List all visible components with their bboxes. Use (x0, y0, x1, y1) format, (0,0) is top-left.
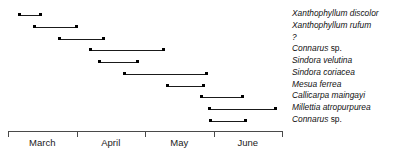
bar-line (33, 27, 78, 28)
bar-line (200, 97, 244, 98)
species-binomial: Connarus (292, 114, 328, 124)
bar-row (89, 46, 165, 55)
species-binomial: Xanthophyllum discolor (292, 8, 379, 18)
species-binomial: Sindora velutina (292, 55, 352, 65)
species-label: Callicarpa maingayi (292, 90, 365, 100)
axis-label-may: May (145, 137, 214, 149)
axis-label-june: June (214, 137, 283, 149)
bar-start-marker (33, 25, 36, 28)
bar-end-marker (39, 13, 42, 16)
axis-label-april: April (77, 137, 146, 149)
bar-start-marker (166, 84, 169, 87)
time-axis: MarchAprilMayJune (0, 131, 290, 153)
bar-end-marker (136, 60, 139, 63)
species-binomial: Sindora coriacea (292, 67, 355, 77)
bar-line (208, 109, 277, 110)
bar-row (200, 93, 244, 102)
bar-line (89, 50, 165, 51)
species-qualifier: sp. (328, 43, 342, 53)
species-label: Millettia atropurpurea (292, 102, 371, 112)
bar-row (98, 58, 139, 67)
species-binomial: Millettia atropurpurea (292, 102, 371, 112)
species-label: Mesua ferrea (292, 79, 341, 89)
bar-row (208, 105, 277, 114)
bar-start-marker (18, 13, 21, 16)
bar-line (166, 86, 205, 87)
bar-row (58, 35, 105, 44)
species-qualifier: sp. (328, 114, 342, 124)
bar-end-marker (202, 84, 205, 87)
species-binomial: Xanthophyllum rufum (292, 20, 371, 30)
bar-line (123, 74, 208, 75)
bar-end-marker (205, 72, 208, 75)
bar-start-marker (200, 95, 203, 98)
bar-end-marker (241, 95, 244, 98)
bar-row (123, 70, 208, 79)
species-binomial: Connarus (292, 43, 328, 53)
species-legend: Xanthophyllum discolorXanthophyllum rufu… (292, 0, 397, 153)
species-label: Xanthophyllum rufum (292, 20, 371, 30)
bar-start-marker (123, 72, 126, 75)
species-label: Sindora coriacea (292, 67, 355, 77)
phenology-chart: MarchAprilMayJune Xanthophyllum discolor… (0, 0, 397, 153)
bar-end-marker (102, 37, 105, 40)
bar-row (209, 117, 247, 126)
species-binomial: Mesua ferrea (292, 79, 341, 89)
bar-line (209, 121, 247, 122)
species-label: ? (292, 32, 297, 42)
bar-line (98, 62, 139, 63)
bar-row (166, 82, 205, 91)
axis-tick (282, 131, 283, 137)
bar-start-marker (58, 37, 61, 40)
bar-end-marker (244, 119, 247, 122)
species-binomial: Callicarpa maingayi (292, 90, 365, 100)
bar-end-marker (274, 107, 277, 110)
bar-start-marker (208, 107, 211, 110)
species-label: Connarus sp. (292, 43, 342, 53)
bar-end-marker (75, 25, 78, 28)
axis-label-march: March (8, 137, 77, 149)
species-label: Connarus sp. (292, 114, 342, 124)
bar-start-marker (89, 48, 92, 51)
bar-row (18, 11, 42, 20)
bar-row (33, 23, 78, 32)
species-binomial: ? (292, 32, 297, 42)
bar-line (58, 39, 105, 40)
species-label: Sindora velutina (292, 55, 352, 65)
species-label: Xanthophyllum discolor (292, 8, 379, 18)
bar-end-marker (162, 48, 165, 51)
bar-start-marker (98, 60, 101, 63)
bar-start-marker (209, 119, 212, 122)
